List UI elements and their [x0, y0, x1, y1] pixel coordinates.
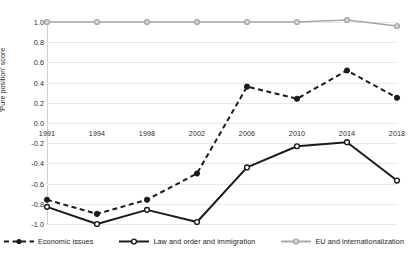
y-axis-tick: 0.2 — [4, 98, 44, 107]
legend-swatch-icon — [119, 237, 149, 246]
data-point — [344, 68, 349, 73]
plot-area — [47, 22, 397, 224]
series-eu-and-internationalization — [45, 18, 400, 29]
y-axis-tick: 1.0 — [4, 18, 44, 27]
data-point — [195, 20, 200, 25]
y-axis-tick-labels: 1.00.80.60.40.20.0-0.2-0.4-0.6-0.8-1.0 — [0, 22, 44, 224]
data-point — [45, 20, 50, 25]
legend-item[interactable]: EU and internationalization — [281, 237, 404, 246]
x-axis-tick-labels: 19911994199820022006201020142018 — [47, 129, 397, 141]
y-axis-tick: 0.0 — [4, 119, 44, 128]
y-axis-tick: -1.0 — [4, 220, 44, 229]
y-axis-tick: 0.4 — [4, 78, 44, 87]
x-axis-tick: 2014 — [339, 129, 355, 138]
data-point — [144, 197, 149, 202]
x-axis-tick: 2002 — [189, 129, 205, 138]
data-point — [45, 204, 50, 209]
series-line — [47, 142, 397, 224]
y-axis-tick: -0.2 — [4, 139, 44, 148]
legend-item[interactable]: Law and order and immigration — [119, 237, 255, 246]
x-axis-tick: 2018 — [389, 129, 405, 138]
legend-swatch-icon — [281, 237, 311, 246]
data-point — [395, 178, 400, 183]
y-axis-tick: 0.8 — [4, 38, 44, 47]
y-axis-tick: -0.6 — [4, 179, 44, 188]
x-axis-tick: 2010 — [289, 129, 305, 138]
legend-label: Law and order and immigration — [153, 237, 255, 246]
data-point — [295, 20, 300, 25]
data-point — [94, 211, 99, 216]
data-point — [145, 20, 150, 25]
data-point — [345, 18, 350, 23]
legend-swatch-icon — [4, 237, 34, 246]
data-point — [194, 171, 199, 176]
line-chart: 'Pure position' score 1.00.80.60.40.20.0… — [0, 0, 408, 255]
data-point — [145, 207, 150, 212]
x-axis-tick: 1998 — [139, 129, 155, 138]
data-point — [44, 197, 49, 202]
chart-legend: Economic issuesLaw and order and immigra… — [0, 233, 408, 249]
data-point — [394, 95, 399, 100]
data-point — [295, 144, 300, 149]
y-axis-tick: 0.6 — [4, 58, 44, 67]
data-point — [244, 84, 249, 89]
x-axis-tick: 1994 — [89, 129, 105, 138]
data-point — [395, 24, 400, 29]
legend-item[interactable]: Economic issues — [4, 237, 93, 246]
data-point — [245, 165, 250, 170]
data-point — [95, 20, 100, 25]
legend-label: Economic issues — [38, 237, 93, 246]
y-axis-tick: -0.8 — [4, 199, 44, 208]
legend-label: EU and internationalization — [315, 237, 404, 246]
y-axis-tick: -0.4 — [4, 159, 44, 168]
x-axis-tick: 1991 — [39, 129, 55, 138]
x-axis-tick: 2006 — [239, 129, 255, 138]
series-layer — [47, 22, 397, 224]
data-point — [195, 220, 200, 225]
data-point — [95, 222, 100, 227]
data-point — [245, 20, 250, 25]
data-point — [294, 96, 299, 101]
